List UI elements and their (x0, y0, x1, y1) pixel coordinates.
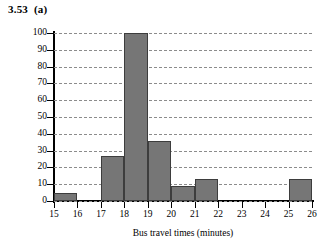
y-tick (47, 100, 54, 101)
y-tick (47, 184, 54, 185)
y-tick-label: 40 (21, 128, 47, 138)
y-tick-label: 20 (21, 161, 47, 171)
gridline (54, 201, 312, 202)
y-tick (47, 67, 54, 68)
histogram-bar (289, 179, 312, 201)
y-tick (47, 50, 54, 51)
y-tick-label: 90 (21, 44, 47, 54)
y-tick (47, 201, 54, 202)
figure-page: 3.53 (a) Frequency 010203040506070809010… (0, 0, 331, 252)
x-tick (171, 202, 172, 208)
x-tick (77, 202, 78, 208)
x-tick-label: 24 (253, 209, 277, 219)
x-tick-label: 20 (159, 209, 183, 219)
y-tick-label: 0 (21, 195, 47, 205)
x-tick (195, 202, 196, 208)
y-tick-label: 30 (21, 145, 47, 155)
figure-label: 3.53 (a) (8, 3, 47, 15)
histogram-bar (101, 156, 124, 201)
x-tick-label: 26 (300, 209, 324, 219)
x-tick-label: 17 (89, 209, 113, 219)
y-tick-label: 60 (21, 94, 47, 104)
x-tick-label: 22 (206, 209, 230, 219)
histogram-bar (148, 141, 171, 201)
y-tick (47, 33, 54, 34)
x-tick (148, 202, 149, 208)
x-tick (242, 202, 243, 208)
histogram-bar (171, 186, 194, 201)
plot-area (54, 33, 312, 201)
x-tick (289, 202, 290, 208)
y-tick-label: 80 (21, 61, 47, 71)
y-tick-label: 50 (21, 111, 47, 121)
x-tick-label: 25 (277, 209, 301, 219)
x-tick (312, 202, 313, 208)
x-tick-label: 21 (183, 209, 207, 219)
y-tick (47, 134, 54, 135)
histogram-bar (124, 33, 147, 201)
y-tick-label: 70 (21, 77, 47, 87)
x-axis-title: Bus travel times (minutes) (54, 228, 312, 238)
y-tick-label: 100 (21, 27, 47, 37)
x-tick (218, 202, 219, 208)
x-tick-label: 16 (65, 209, 89, 219)
y-tick-label: 10 (21, 178, 47, 188)
y-tick (47, 83, 54, 84)
x-tick-label: 19 (136, 209, 160, 219)
y-tick (47, 167, 54, 168)
x-tick (265, 202, 266, 208)
histogram-bars (54, 33, 312, 201)
x-tick-label: 15 (42, 209, 66, 219)
x-tick-label: 18 (112, 209, 136, 219)
y-tick (47, 151, 54, 152)
x-tick-label: 23 (230, 209, 254, 219)
histogram-bar (54, 193, 77, 201)
x-tick (54, 202, 55, 208)
x-tick (124, 202, 125, 208)
histogram-bar (195, 179, 218, 201)
y-tick (47, 117, 54, 118)
x-tick (101, 202, 102, 208)
